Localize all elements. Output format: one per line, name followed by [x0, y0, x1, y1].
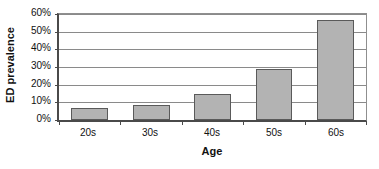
x-tick-mark — [120, 121, 121, 125]
x-tick-mark — [182, 121, 183, 125]
bar-20s — [71, 108, 108, 120]
plot-area — [57, 13, 367, 122]
x-tick-label-40s: 40s — [181, 126, 243, 142]
x-tick-label-20s: 20s — [57, 126, 119, 142]
bar-slot — [305, 14, 366, 120]
y-tick-label: 40% — [31, 43, 51, 53]
y-tick-label: 60% — [31, 8, 51, 18]
bar-slot — [59, 14, 120, 120]
x-tick-mark — [59, 121, 60, 125]
y-axis-title-label: ED prevalence — [4, 27, 16, 103]
y-tick-label: 30% — [31, 61, 51, 71]
bar-50s — [256, 69, 293, 120]
x-tick-label-50s: 50s — [243, 126, 305, 142]
bar-60s — [317, 20, 354, 120]
y-tick-label: 20% — [31, 79, 51, 89]
x-tick-mark — [366, 121, 367, 125]
bar-40s — [194, 94, 231, 121]
y-tick-label: 0% — [37, 114, 51, 124]
bar-slot — [120, 14, 181, 120]
bar-30s — [133, 105, 170, 120]
x-tick-mark — [305, 121, 306, 125]
x-tick-label-60s: 60s — [305, 126, 367, 142]
y-tick-label: 50% — [31, 26, 51, 36]
bar-chart-figure: ED prevalence 0%10%20%30%40%50%60% 20s30… — [0, 0, 379, 169]
x-axis-tick-labels: 20s30s40s50s60s — [57, 126, 367, 142]
bar-slot — [243, 14, 304, 120]
bars-container — [59, 14, 366, 120]
y-axis-title: ED prevalence — [0, 0, 20, 130]
y-axis-tick-labels: 0%10%20%30%40%50%60% — [18, 8, 54, 124]
y-tick-label: 10% — [31, 96, 51, 106]
x-tick-label-30s: 30s — [119, 126, 181, 142]
x-axis-title: Age — [57, 145, 367, 157]
x-tick-mark — [243, 121, 244, 125]
bar-slot — [182, 14, 243, 120]
